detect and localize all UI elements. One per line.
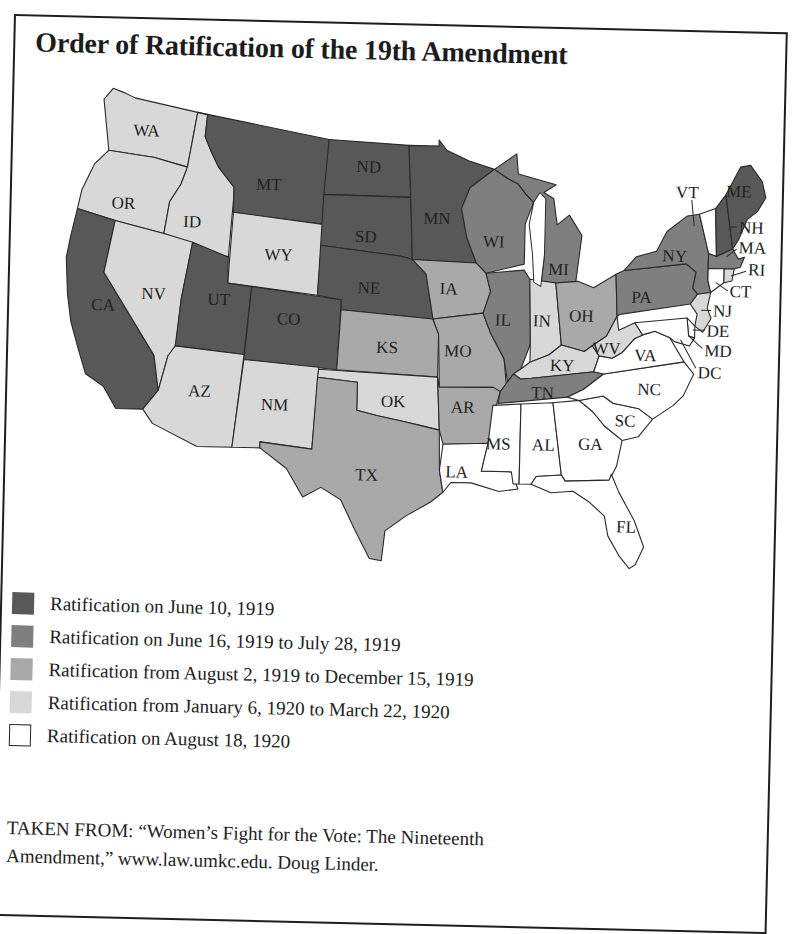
legend-label: Ratification on August 18, 1920 bbox=[47, 724, 291, 752]
label-NC: NC bbox=[637, 380, 661, 400]
label-ID: ID bbox=[183, 212, 201, 231]
label-CT: CT bbox=[729, 282, 752, 302]
label-AL: AL bbox=[532, 435, 555, 455]
label-IA: IA bbox=[439, 279, 458, 298]
state-PA bbox=[615, 262, 698, 318]
label-UT: UT bbox=[207, 290, 231, 310]
label-MN: MN bbox=[423, 209, 451, 229]
label-NV: NV bbox=[141, 284, 167, 304]
label-KS: KS bbox=[376, 338, 398, 358]
label-MA: MA bbox=[738, 238, 767, 258]
label-MS: MS bbox=[486, 434, 511, 454]
label-NE: NE bbox=[357, 278, 380, 298]
legend-swatch bbox=[10, 691, 33, 714]
label-WI: WI bbox=[483, 232, 505, 252]
label-NJ: NJ bbox=[713, 302, 733, 321]
label-MD: MD bbox=[704, 341, 732, 361]
legend-label: Ratification on June 10, 1919 bbox=[50, 593, 275, 620]
label-CA: CA bbox=[91, 295, 116, 315]
label-SD: SD bbox=[355, 227, 377, 247]
label-GA: GA bbox=[578, 434, 604, 454]
label-WA: WA bbox=[133, 121, 161, 141]
legend-label: Ratification on June 16, 1919 to July 28… bbox=[49, 626, 401, 656]
source-citation: TAKEN FROM: “Women’s Fight for the Vote:… bbox=[6, 814, 747, 887]
label-IN: IN bbox=[533, 311, 551, 330]
label-RI: RI bbox=[748, 260, 766, 279]
label-OR: OR bbox=[111, 193, 136, 213]
legend-label: Ratification from January 6, 1920 to Mar… bbox=[48, 691, 451, 722]
label-VA: VA bbox=[634, 346, 658, 366]
label-DC: DC bbox=[698, 363, 722, 383]
label-LA: LA bbox=[445, 462, 469, 482]
legend-swatch bbox=[10, 658, 33, 681]
label-CO: CO bbox=[277, 309, 301, 329]
label-NH: NH bbox=[739, 218, 764, 238]
source-line-1: TAKEN FROM: “Women’s Fight for the Vote:… bbox=[7, 817, 485, 849]
label-AR: AR bbox=[451, 397, 476, 417]
label-DE: DE bbox=[707, 321, 730, 341]
label-IL: IL bbox=[495, 310, 511, 329]
state-CT bbox=[708, 268, 725, 292]
label-MO: MO bbox=[444, 341, 472, 361]
label-FL: FL bbox=[616, 517, 636, 536]
label-WY: WY bbox=[264, 245, 293, 265]
label-MI: MI bbox=[548, 260, 570, 279]
states-layer bbox=[59, 87, 768, 571]
label-PA: PA bbox=[631, 288, 652, 307]
label-ND: ND bbox=[356, 157, 381, 177]
legend-swatch bbox=[9, 724, 32, 747]
label-TN: TN bbox=[531, 383, 554, 403]
legend: Ratification on June 10, 1919 Ratificati… bbox=[9, 586, 476, 762]
label-TX: TX bbox=[355, 465, 378, 485]
label-SC: SC bbox=[614, 411, 635, 430]
source-line-2: Amendment,” www.law.umkc.edu. Doug Linde… bbox=[6, 845, 379, 875]
label-NY: NY bbox=[662, 246, 687, 266]
label-AZ: AZ bbox=[188, 381, 211, 401]
label-VT: VT bbox=[676, 183, 700, 203]
label-MT: MT bbox=[256, 175, 283, 195]
label-ME: ME bbox=[726, 182, 752, 202]
label-WV: WV bbox=[592, 339, 621, 359]
legend-swatch bbox=[12, 592, 35, 615]
label-OK: OK bbox=[381, 392, 407, 412]
label-OH: OH bbox=[569, 306, 594, 326]
label-NM: NM bbox=[261, 395, 289, 415]
legend-label: Ratification from August 2, 1919 to Dece… bbox=[48, 658, 474, 690]
legend-swatch bbox=[11, 625, 34, 648]
label-KY: KY bbox=[550, 356, 575, 376]
us-map: WA OR ID CA NV MT WY UT CO AZ NM ND SD N… bbox=[3, 16, 786, 604]
figure-frame: Order of Ratification of the 19th Amendm… bbox=[0, 14, 788, 934]
